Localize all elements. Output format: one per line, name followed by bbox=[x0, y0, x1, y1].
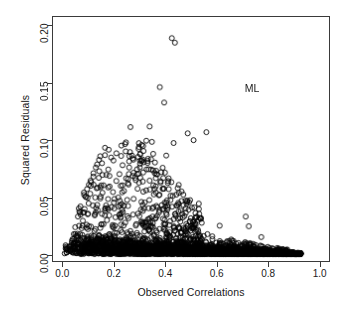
x-tick-mark bbox=[165, 262, 166, 267]
plot-area: ML bbox=[52, 16, 330, 262]
y-tick-mark bbox=[47, 25, 52, 26]
x-tick-label: 0.6 bbox=[197, 268, 237, 279]
x-tick-label: 0.8 bbox=[248, 268, 288, 279]
y-tick-label: 0.10 bbox=[39, 139, 50, 158]
y-tick-label: 0.15 bbox=[39, 81, 50, 100]
x-tick-label: 0.2 bbox=[94, 268, 134, 279]
x-tick-mark bbox=[320, 262, 321, 267]
x-tick-mark bbox=[268, 262, 269, 267]
ml-annotation: ML bbox=[245, 82, 260, 94]
x-tick-label: 0.4 bbox=[145, 268, 185, 279]
x-axis-title: Observed Correlations bbox=[52, 286, 330, 298]
y-axis-title: Squared Residuals bbox=[19, 17, 31, 263]
x-tick-label: 1.0 bbox=[300, 268, 340, 279]
y-tick-label: 0.05 bbox=[39, 196, 50, 215]
x-tick-mark bbox=[62, 262, 63, 267]
scatter-plot-figure: Squared Residuals ML 0.000.050.100.150.2… bbox=[0, 0, 348, 315]
x-tick-mark bbox=[217, 262, 218, 267]
y-axis-title-container: Squared Residuals bbox=[12, 16, 26, 262]
y-tick-mark bbox=[47, 198, 52, 199]
x-tick-label: 0.0 bbox=[42, 268, 82, 279]
y-tick-mark bbox=[47, 140, 52, 141]
scatter-points-canvas bbox=[53, 17, 329, 261]
x-tick-mark bbox=[114, 262, 115, 267]
y-tick-label: 0.20 bbox=[39, 24, 50, 43]
y-tick-mark bbox=[47, 255, 52, 256]
y-tick-mark bbox=[47, 83, 52, 84]
